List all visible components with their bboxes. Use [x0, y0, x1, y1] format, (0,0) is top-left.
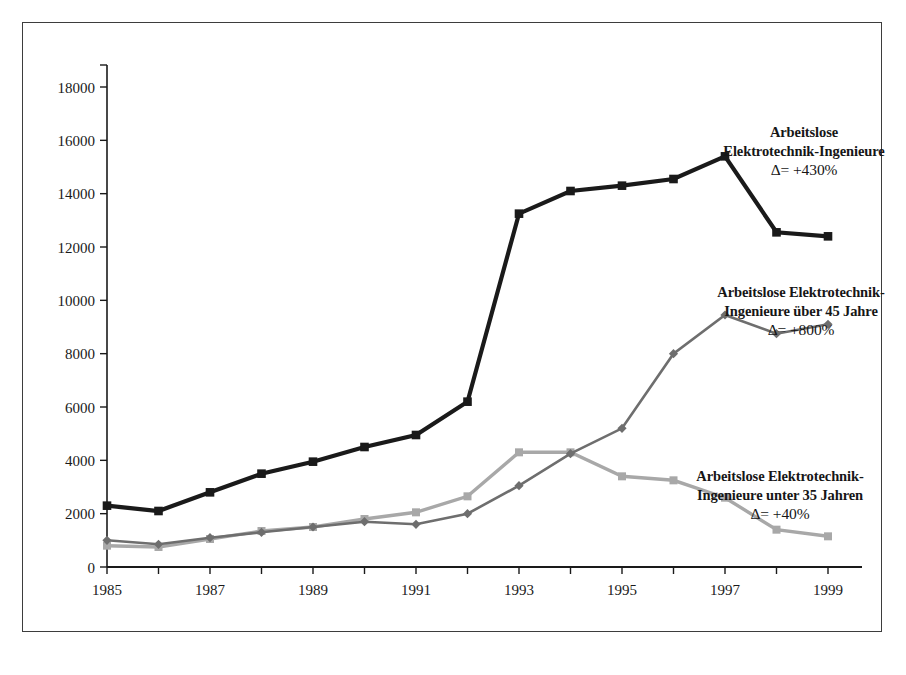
x-axis-tick-label: 1997 — [710, 582, 741, 598]
x-axis-tick-label: 1991 — [401, 582, 431, 598]
annotation-under35-delta: Δ= +40% — [651, 504, 906, 524]
y-axis-tick-label: 10000 — [58, 293, 96, 309]
series-marker — [463, 509, 472, 518]
y-axis-tick-label: 8000 — [65, 346, 95, 362]
series-marker — [618, 472, 626, 480]
series-marker — [411, 520, 420, 529]
x-axis-tick-label: 1999 — [813, 582, 843, 598]
annotation-under35-line2: Ingenieure unter 35 Jahren — [651, 486, 906, 505]
annotation-over45: Arbeitslose Elektrotechnik- Ingenieure ü… — [679, 283, 906, 340]
series-marker — [257, 469, 266, 478]
y-axis-tick-label: 12000 — [58, 240, 96, 256]
annotation-over45-line2: Ingenieure über 45 Jahre — [679, 302, 906, 321]
annotation-over45-line1: Arbeitslose Elektrotechnik- — [679, 283, 906, 302]
series-marker — [360, 443, 369, 452]
y-axis-tick-label: 6000 — [65, 400, 95, 416]
x-axis-tick-label: 1993 — [504, 582, 534, 598]
y-axis-tick-label: 2000 — [65, 506, 95, 522]
annotation-total-line1: Arbeitslose — [689, 123, 906, 142]
annotation-total-delta: Δ= +430% — [689, 160, 906, 180]
y-axis-tick-label: 16000 — [58, 133, 96, 149]
chart-page: 0200040006000800010000120001400016000180… — [0, 0, 906, 675]
x-axis-tick-label: 1995 — [607, 582, 637, 598]
series-marker — [463, 397, 472, 406]
series-marker — [515, 209, 524, 218]
series-marker — [566, 187, 575, 196]
chart-frame: 0200040006000800010000120001400016000180… — [22, 22, 882, 632]
x-axis-tick-label: 1987 — [195, 582, 226, 598]
annotation-under35: Arbeitslose Elektrotechnik- Ingenieure u… — [651, 467, 906, 524]
series-marker — [412, 508, 420, 516]
series-marker — [309, 457, 318, 466]
series-marker — [412, 431, 421, 440]
series-marker — [103, 501, 112, 510]
annotation-total-line2: Elektrotechnik-Ingenieure — [689, 142, 906, 161]
annotation-total-unemployed: Arbeitslose Elektrotechnik-Ingenieure Δ=… — [689, 123, 906, 180]
series-marker — [618, 181, 627, 190]
series-marker — [772, 228, 781, 237]
series-marker — [464, 492, 472, 500]
x-axis-tick-label: 1989 — [298, 582, 328, 598]
x-axis-tick-label: 1985 — [92, 582, 122, 598]
y-axis-tick-label: 18000 — [58, 80, 96, 96]
series-marker — [824, 232, 833, 241]
y-axis-tick-label: 0 — [88, 560, 96, 576]
y-axis-tick-label: 4000 — [65, 453, 95, 469]
series-marker — [206, 488, 215, 497]
series-marker — [824, 532, 832, 540]
series-marker — [515, 448, 523, 456]
annotation-under35-line1: Arbeitslose Elektrotechnik- — [651, 467, 906, 486]
series-marker — [773, 526, 781, 534]
annotation-over45-delta: Δ= +800% — [679, 320, 906, 340]
series-marker — [669, 175, 678, 184]
y-axis-tick-label: 14000 — [58, 186, 96, 202]
series-marker — [154, 507, 163, 516]
